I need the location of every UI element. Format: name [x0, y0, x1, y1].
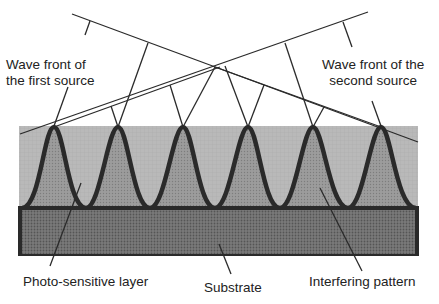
label-line: the first source	[6, 73, 95, 89]
label-substrate: Substrate	[204, 280, 262, 296]
label-line: Wave front of	[6, 57, 95, 73]
substrate	[20, 208, 417, 256]
label-interfering-pattern: Interfering pattern	[309, 274, 416, 290]
interference-lithography-diagram	[0, 0, 439, 304]
label-line: Wave front of the	[322, 57, 424, 73]
label-photo-sensitive-layer: Photo-sensitive layer	[23, 274, 148, 290]
label-first-source: Wave front of the first source	[6, 57, 95, 89]
label-line: second source	[322, 73, 424, 89]
label-second-source: Wave front of the second source	[322, 57, 424, 89]
